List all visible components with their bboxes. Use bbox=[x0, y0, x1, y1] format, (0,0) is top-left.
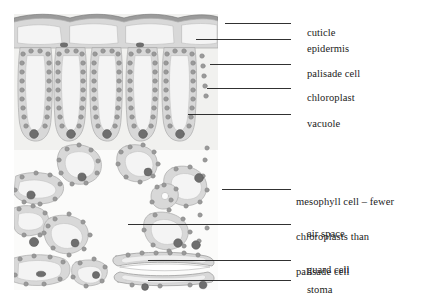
label-stoma: stoma bbox=[296, 272, 333, 305]
label-mesophyll-cell-line1: mesophyll cell – fewer bbox=[296, 196, 394, 208]
palisade-layer bbox=[18, 48, 208, 141]
label-stoma-text: stoma bbox=[307, 284, 333, 295]
label-air-space-text: air space bbox=[307, 228, 345, 239]
label-chloroplast-text: chloroplast bbox=[307, 92, 355, 103]
label-palisade-cell-text: palisade cell bbox=[307, 68, 360, 79]
label-epidermis-text: epidermis bbox=[307, 43, 349, 54]
label-vacuole-text: vacuole bbox=[307, 118, 340, 129]
leaf-cross-section-diagram: cuticle epidermis palisade cell chloropl… bbox=[0, 0, 425, 305]
upper-epidermis bbox=[14, 18, 218, 48]
label-vacuole: vacuole bbox=[296, 106, 340, 141]
label-air-space: air space bbox=[296, 216, 345, 251]
